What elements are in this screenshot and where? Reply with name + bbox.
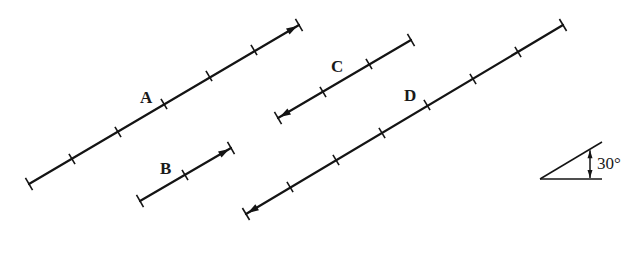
vectors-group: ABCD xyxy=(25,19,566,220)
arrowhead-icon xyxy=(280,108,291,117)
end-cap xyxy=(227,142,234,154)
vector-diagram: ABCD 30° xyxy=(0,0,644,255)
end-cap xyxy=(136,195,143,207)
arrowhead-icon xyxy=(286,26,297,35)
vector-c: C xyxy=(274,34,414,124)
vector-label: C xyxy=(331,57,343,76)
arrowhead-icon xyxy=(218,149,229,158)
end-cap xyxy=(274,112,281,124)
end-cap xyxy=(559,19,566,31)
end-cap xyxy=(25,178,32,190)
arrowhead-icon xyxy=(248,204,259,213)
angle-slant-line xyxy=(540,142,602,179)
arrow-down-icon xyxy=(588,170,593,178)
vector-shaft xyxy=(278,40,411,118)
end-cap xyxy=(295,19,302,31)
vector-shaft xyxy=(246,25,563,214)
vector-label: A xyxy=(140,88,153,107)
vector-label: B xyxy=(160,159,171,178)
arrow-up-icon xyxy=(588,150,593,158)
angle-label: 30° xyxy=(597,154,621,173)
vector-label: D xyxy=(404,86,416,105)
vector-b: B xyxy=(136,142,234,207)
end-cap xyxy=(407,34,414,46)
angle-indicator: 30° xyxy=(540,142,621,179)
end-cap xyxy=(242,208,249,220)
vector-d: D xyxy=(242,19,566,220)
